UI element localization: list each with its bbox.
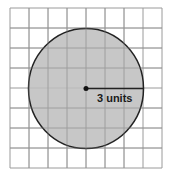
circle-diagram: 3 units bbox=[0, 0, 171, 178]
radius-label: 3 units bbox=[97, 92, 132, 104]
center-point bbox=[84, 86, 89, 91]
